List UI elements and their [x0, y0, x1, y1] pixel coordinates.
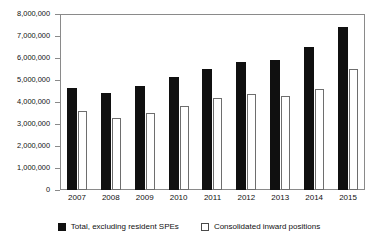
y-axis-tick-label: 6,000,000	[17, 53, 50, 63]
bar-group	[60, 14, 94, 190]
legend-swatch-icon	[201, 223, 209, 231]
bar-group	[229, 14, 263, 190]
bar-group	[94, 14, 128, 190]
bar-group	[196, 14, 230, 190]
y-axis-tick-label: 7,000,000	[17, 31, 50, 41]
bar-2013-series2	[281, 96, 290, 190]
y-axis-tick-label: 0	[46, 185, 50, 195]
bar-group	[128, 14, 162, 190]
bar-chart: 01,000,0002,000,0003,000,0004,000,0005,0…	[0, 0, 378, 245]
legend-swatch-icon	[58, 223, 66, 231]
x-axis-tick-label: 2011	[196, 192, 230, 204]
bar-2007-series2	[78, 111, 87, 190]
x-axis-tick-label: 2012	[229, 192, 263, 204]
bar-group	[297, 14, 331, 190]
legend-label: Total, excluding resident SPEs	[71, 222, 179, 232]
bar-2010-series1	[169, 77, 179, 190]
x-axis-tick-label: 2007	[60, 192, 94, 204]
bar-group	[263, 14, 297, 190]
x-axis-tick-label: 2015	[331, 192, 365, 204]
bar-2008-series2	[112, 118, 121, 190]
legend-item: Consolidated inward positions	[201, 222, 320, 232]
x-axis-tick-label: 2008	[94, 192, 128, 204]
x-axis-tick-label: 2014	[297, 192, 331, 204]
x-axis-tick-label: 2013	[263, 192, 297, 204]
y-axis-tick-label: 5,000,000	[17, 75, 50, 85]
bars-layer	[60, 14, 365, 190]
y-axis-tick-mark	[55, 190, 60, 191]
y-axis-tick-label: 2,000,000	[17, 141, 50, 151]
x-axis-tick-label: 2009	[128, 192, 162, 204]
chart-legend: Total, excluding resident SPEsConsolidat…	[0, 219, 378, 235]
x-axis-tick-label: 2010	[162, 192, 196, 204]
y-axis-tick-label: 1,000,000	[17, 163, 50, 173]
bar-2015-series2	[349, 69, 358, 190]
bar-2009-series1	[135, 86, 145, 190]
bar-2012-series2	[247, 94, 256, 190]
bar-2013-series1	[270, 60, 280, 190]
bar-2014-series2	[315, 89, 324, 190]
y-axis: 01,000,0002,000,0003,000,0004,000,0005,0…	[0, 0, 60, 205]
legend-label: Consolidated inward positions	[214, 222, 320, 232]
bar-2015-series1	[338, 27, 348, 190]
y-axis-tick-label: 8,000,000	[17, 9, 50, 19]
bar-2012-series1	[236, 62, 246, 190]
bar-2007-series1	[67, 88, 77, 190]
y-axis-tick-label: 4,000,000	[17, 97, 50, 107]
bar-group	[331, 14, 365, 190]
bar-2014-series1	[304, 47, 314, 190]
bar-2009-series2	[146, 113, 155, 190]
bar-2011-series1	[202, 69, 212, 190]
legend-item: Total, excluding resident SPEs	[58, 222, 179, 232]
bar-group	[162, 14, 196, 190]
bar-2008-series1	[101, 93, 111, 190]
y-axis-tick-label: 3,000,000	[17, 119, 50, 129]
bar-2011-series2	[213, 98, 222, 190]
x-axis: 200720082009201020112012201320142015	[60, 192, 365, 208]
bar-2010-series2	[180, 106, 189, 190]
